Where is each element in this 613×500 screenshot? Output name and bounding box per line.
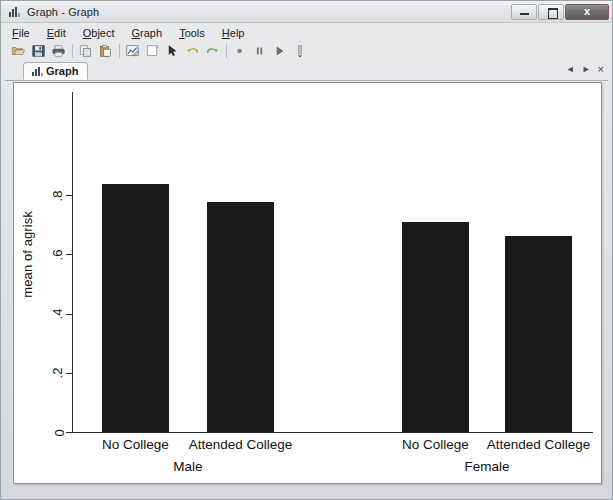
tab-prev-icon[interactable]: ◄ (566, 65, 575, 74)
pointer-icon[interactable] (163, 42, 182, 60)
redo-icon[interactable] (203, 42, 222, 60)
menu-item-edit[interactable]: Edit (45, 26, 68, 40)
toolbar (5, 41, 608, 61)
new-graph-icon[interactable] (143, 42, 162, 60)
menu-item-help[interactable]: Help (220, 26, 247, 40)
bar[interactable] (505, 236, 572, 432)
bar-chart: mean of agrisk 0.2.4.6.8 No CollegeAtten… (14, 83, 601, 483)
y-axis-tick: .4 (66, 314, 72, 315)
close-icon: x (566, 5, 608, 19)
pause-icon[interactable] (250, 42, 269, 60)
maximize-button[interactable] (538, 4, 564, 20)
tab-label: Graph (46, 65, 78, 77)
bar-chart-icon (8, 5, 21, 18)
print-icon[interactable] (49, 42, 68, 60)
y-axis-tick-label: .6 (50, 249, 65, 260)
graph-canvas[interactable]: mean of agrisk 0.2.4.6.8 No CollegeAtten… (13, 82, 602, 484)
bar[interactable] (402, 222, 469, 432)
menu-item-object[interactable]: Object (81, 26, 117, 40)
menu-item-label: ools (185, 27, 205, 39)
more-icon[interactable] (290, 42, 309, 60)
graph-window: Graph - Graph x File Edit Object Graph T… (0, 0, 613, 500)
tab-next-icon[interactable]: ► (582, 65, 591, 74)
menu-item-file[interactable]: File (10, 26, 32, 40)
y-axis-tick: 0 (66, 432, 72, 433)
menu-accel: F (12, 27, 19, 39)
y-axis-tick: .8 (66, 195, 72, 196)
x-axis-line (72, 432, 593, 433)
menu-item-label: bject (91, 27, 114, 39)
title-bar: Graph - Graph x (1, 1, 612, 23)
menu-item-label: ile (19, 27, 30, 39)
tab-close-icon[interactable]: × (598, 64, 604, 75)
record-icon[interactable] (230, 42, 249, 60)
menu-item-graph[interactable]: Graph (130, 26, 165, 40)
toolbar-separator (119, 44, 120, 58)
menu-accel: G (132, 27, 141, 39)
tab-nav: ◄ ► × (566, 64, 604, 75)
menu-accel: E (47, 27, 54, 39)
maximize-icon (548, 8, 558, 19)
minimize-icon (520, 13, 529, 15)
y-axis-tick: .2 (66, 373, 72, 374)
y-axis-line (72, 92, 73, 433)
menu-bar: File Edit Object Graph Tools Help (5, 24, 608, 41)
menu-item-tools[interactable]: Tools (177, 26, 207, 40)
open-icon[interactable] (9, 42, 28, 60)
menu-item-label: raph (140, 27, 162, 39)
graph-editor-icon[interactable] (123, 42, 142, 60)
window-buttons: x (510, 3, 609, 20)
y-axis-tick-label: 0 (52, 429, 67, 436)
tab-graph[interactable]: Graph (23, 62, 88, 80)
copy-icon[interactable] (76, 42, 95, 60)
bar[interactable] (102, 184, 169, 432)
toolbar-separator (72, 44, 73, 58)
x-axis-group-label: Male (108, 459, 268, 474)
y-axis-tick: .6 (66, 254, 72, 255)
undo-icon[interactable] (183, 42, 202, 60)
bar[interactable] (207, 202, 274, 432)
menu-accel: H (222, 27, 230, 39)
save-icon[interactable] (29, 42, 48, 60)
menu-item-label: dit (54, 27, 66, 39)
minimize-button[interactable] (511, 4, 537, 20)
toolbar-separator (226, 44, 227, 58)
close-button[interactable]: x (565, 4, 609, 20)
paste-icon[interactable] (96, 42, 115, 60)
y-axis-tick-label: .2 (50, 368, 65, 379)
x-axis-group-label: Female (407, 459, 567, 474)
play-icon[interactable] (270, 42, 289, 60)
x-axis-category-label: Attended College (161, 437, 321, 452)
x-axis-category-label: Attended College (459, 437, 603, 452)
bar-chart-icon (31, 66, 42, 77)
y-axis-tick-label: .4 (50, 309, 65, 320)
tab-strip: Graph ◄ ► × (5, 62, 608, 81)
y-axis-tick-label: .8 (50, 190, 65, 201)
window-title: Graph - Graph (27, 6, 99, 18)
menu-accel: O (83, 27, 92, 39)
y-axis-title: mean of agrisk (20, 211, 35, 298)
menu-item-label: elp (230, 27, 245, 39)
